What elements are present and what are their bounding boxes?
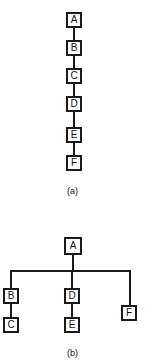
node-a[interactable]: A [66,12,82,28]
node-c-label: C [70,71,77,81]
edge-e-to-f [73,143,75,155]
tree-node-e[interactable]: E [64,317,80,333]
tree-node-e-label: E [69,320,76,330]
edge-bus-to-b [10,270,12,288]
node-f-label: F [71,158,77,168]
node-f[interactable]: F [66,155,82,171]
diagram-a-canvas: A B C D E F (a) [0,0,145,205]
node-c[interactable]: C [66,68,82,84]
figure-panel-b: A B C D E F (b) [0,205,145,360]
node-a-label: A [71,15,78,25]
tree-node-d[interactable]: D [64,288,80,304]
tree-node-c[interactable]: C [3,317,19,333]
tree-node-c-label: C [7,320,14,330]
tree-node-a-label: A [70,241,77,251]
tree-node-b-label: B [8,291,15,301]
edge-bus-to-f [129,270,131,305]
edge-b-to-c-tree [10,304,12,317]
node-b[interactable]: B [66,40,82,56]
node-d[interactable]: D [66,96,82,112]
node-d-label: D [70,99,77,109]
caption-a: (a) [0,186,145,197]
edge-root-to-bus [72,255,74,271]
caption-b: (b) [0,348,145,359]
node-b-label: B [71,43,78,53]
edge-c-to-d [73,84,75,96]
figure-panel-a: A B C D E F (a) [0,0,145,205]
diagram-b-canvas: A B C D E F (b) [0,205,145,360]
node-e-label: E [71,130,78,140]
tree-node-f[interactable]: F [121,305,137,321]
edge-d-to-e [73,112,75,127]
edge-a-to-b [73,28,75,40]
node-e[interactable]: E [66,127,82,143]
tree-node-d-label: D [68,291,75,301]
edge-d-to-e-tree [71,304,73,317]
tree-node-f-label: F [126,308,132,318]
edge-b-to-c [73,56,75,68]
tree-node-b[interactable]: B [3,288,19,304]
tree-node-a[interactable]: A [64,237,82,255]
edge-bus-to-d [71,270,73,288]
